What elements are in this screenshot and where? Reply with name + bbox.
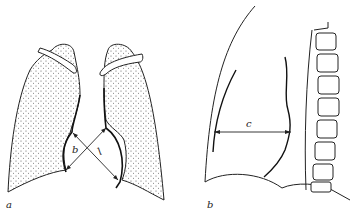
spine [305, 22, 339, 192]
measurement-c-label: c [246, 118, 252, 129]
panel-b-label: b [207, 199, 213, 210]
panel-a-label: a [6, 199, 12, 210]
anterior-chest-wall [205, 6, 255, 182]
diagram-canvas [0, 0, 356, 216]
measurement-b-label: b [72, 144, 78, 155]
anterior-heart-border [213, 70, 236, 152]
measurement-c-line [214, 130, 291, 134]
measurement-b-line [73, 133, 118, 180]
posterior-heart-border [264, 57, 290, 177]
